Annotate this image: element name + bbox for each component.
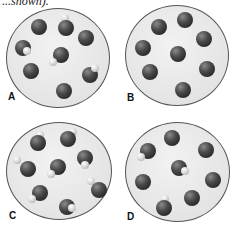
atom [175, 82, 191, 98]
atom [170, 46, 186, 62]
atom [135, 40, 151, 56]
panel-label-a: A [8, 91, 15, 102]
atom-small [47, 170, 55, 178]
panel-label-b: B [127, 92, 134, 103]
atom [91, 182, 107, 198]
atom [198, 142, 214, 158]
atom [30, 135, 46, 151]
atom [60, 131, 76, 147]
atom-small [81, 161, 89, 169]
atom-small [23, 47, 31, 55]
atom [78, 30, 94, 46]
atom [23, 63, 39, 79]
atom [156, 200, 172, 216]
atom [184, 190, 200, 206]
atom [177, 12, 193, 28]
atom [205, 172, 221, 188]
atom [135, 174, 151, 190]
panel-c: C [0, 113, 118, 227]
atom [142, 64, 158, 80]
atom [56, 83, 72, 99]
atom-small [28, 195, 36, 203]
atom-small [181, 167, 189, 175]
atom-small [137, 153, 145, 161]
atom-small [49, 58, 57, 66]
panel-d: D [118, 113, 236, 227]
atom [164, 130, 180, 146]
atom [58, 20, 74, 36]
atom-small [68, 204, 76, 212]
atom-small [13, 156, 21, 164]
atom [196, 31, 212, 47]
panel-label-c: C [9, 210, 16, 221]
panel-a: A [0, 0, 118, 113]
panel-b: B [118, 0, 236, 113]
atom [151, 19, 167, 35]
atom [31, 19, 47, 35]
panel-label-d: D [127, 211, 134, 222]
atom-small [91, 64, 99, 72]
atom [20, 161, 36, 177]
atom [199, 61, 215, 77]
